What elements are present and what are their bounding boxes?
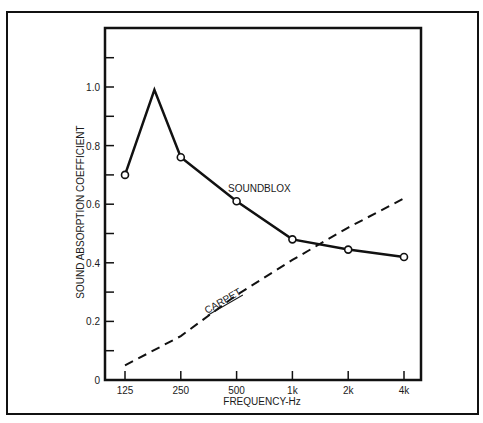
y-tick-label: 0.2 xyxy=(86,316,100,327)
soundblox-label: SOUNDBLOX xyxy=(228,183,291,194)
y-tick-label: 1.0 xyxy=(86,82,100,93)
data-point-marker xyxy=(122,171,129,178)
data-point-marker xyxy=(177,154,184,161)
soundblox-series-line xyxy=(125,90,404,257)
y-tick-label: 0.8 xyxy=(86,141,100,152)
y-tick-label: 0.6 xyxy=(86,199,100,210)
x-tick-label: 500 xyxy=(228,385,245,396)
soundblox-markers xyxy=(122,154,408,261)
y-axis: 00.20.40.60.81.0 xyxy=(86,58,114,386)
data-point-marker xyxy=(233,198,240,205)
y-tick-label: 0.4 xyxy=(86,258,100,269)
x-axis: 1252505001k2k4k xyxy=(117,371,411,396)
x-axis-label: FREQUENCY-Hz xyxy=(223,396,300,407)
x-tick-label: 250 xyxy=(172,385,189,396)
carpet-series-line xyxy=(125,198,404,365)
plot-area xyxy=(105,28,421,380)
x-tick-label: 2k xyxy=(343,385,355,396)
carpet-label: CARPET xyxy=(203,286,244,316)
chart: 00.20.40.60.81.0 1252505001k2k4k SOUNDBL… xyxy=(0,0,483,423)
y-axis-label: SOUND ABSORPTION COEFFICIENT xyxy=(75,125,86,298)
x-tick-label: 4k xyxy=(399,385,411,396)
x-tick-label: 1k xyxy=(287,385,299,396)
data-point-marker xyxy=(345,246,352,253)
x-tick-label: 125 xyxy=(117,385,134,396)
data-point-marker xyxy=(289,236,296,243)
data-point-marker xyxy=(401,253,408,260)
y-tick-label: 0 xyxy=(94,375,100,386)
